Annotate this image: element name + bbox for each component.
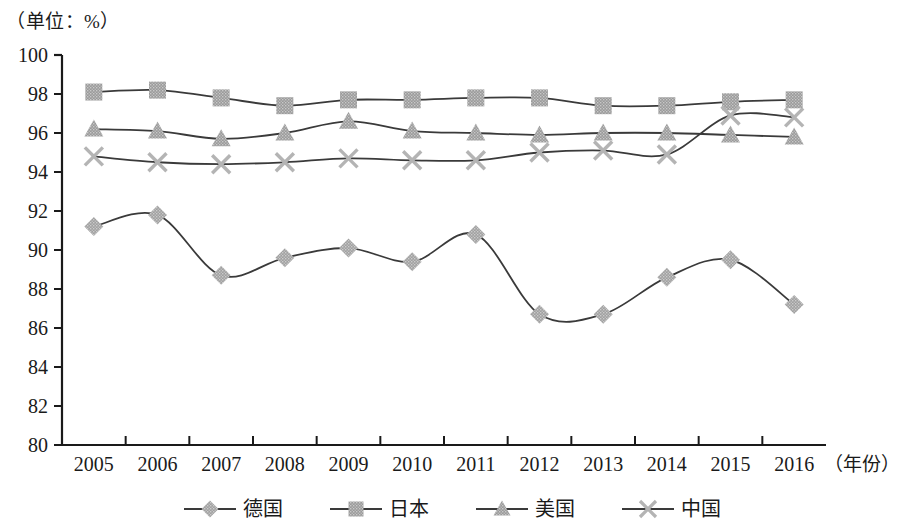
data-point-marker-美国 (594, 124, 613, 141)
data-point-marker-日本 (467, 89, 484, 106)
legend-label: 德国 (243, 498, 283, 520)
data-point-marker-日本 (786, 91, 803, 108)
series-德国 (94, 213, 794, 322)
chart-legend: 德国日本美国中国 (0, 492, 904, 526)
data-point-marker-日本 (658, 97, 675, 114)
data-point-marker-日本 (85, 84, 102, 101)
series-line (94, 113, 794, 164)
legend-swatch-diamond-icon (183, 499, 237, 519)
series-markers-日本 (85, 82, 802, 115)
data-point-marker-德国 (721, 250, 740, 269)
data-point-marker-日本 (213, 89, 230, 106)
data-point-marker-德国 (657, 268, 676, 287)
data-point-marker-德国 (785, 295, 804, 314)
data-point-marker-德国 (594, 305, 613, 324)
data-point-marker-美国 (657, 124, 676, 141)
series-中国 (94, 113, 794, 164)
series-markers-美国 (84, 112, 803, 147)
data-point-marker-美国 (339, 112, 358, 129)
data-point-marker-德国 (212, 266, 231, 285)
x-axis-title: （年份） (824, 453, 900, 477)
x-axis-ticks (62, 436, 762, 445)
data-point-marker-日本 (404, 91, 421, 108)
data-point-marker-德国 (403, 252, 422, 271)
legend-swatch-triangle-icon (475, 499, 529, 519)
y-axis-ticks (54, 55, 62, 445)
data-point-marker-德国 (466, 225, 485, 244)
chart-container: （单位：%） 10098969492908886848280 200520062… (0, 0, 904, 530)
plot-area (0, 0, 904, 530)
data-point-marker-中国 (658, 145, 676, 163)
legend-item-德国[interactable]: 德国 (183, 498, 283, 520)
series-line (94, 90, 794, 107)
data-point-marker-日本 (276, 97, 293, 114)
series-日本 (94, 90, 794, 107)
data-point-marker-日本 (340, 91, 357, 108)
axis-lines (54, 55, 826, 445)
data-point-marker-德国 (148, 205, 167, 224)
legend-swatch-square-icon (329, 499, 383, 519)
data-point-marker-日本 (149, 82, 166, 99)
legend-swatch-x-cross-icon (621, 499, 675, 519)
legend-item-美国[interactable]: 美国 (475, 498, 575, 520)
x-axis-tick-labels: 2005200620072008200920102011201220132014… (0, 452, 904, 482)
series-line (94, 121, 794, 139)
x-axis-tick-label: 2016 (754, 452, 834, 476)
series-美国 (94, 121, 794, 139)
data-point-marker-美国 (530, 125, 549, 142)
data-point-marker-日本 (595, 97, 612, 114)
legend-item-日本[interactable]: 日本 (329, 498, 429, 520)
data-point-marker-德国 (275, 248, 294, 267)
series-line (94, 213, 794, 322)
legend-item-中国[interactable]: 中国 (621, 498, 721, 520)
legend-label: 日本 (389, 498, 429, 520)
data-point-marker-美国 (84, 120, 103, 137)
data-point-marker-德国 (339, 239, 358, 258)
data-point-marker-德国 (84, 217, 103, 236)
data-point-marker-日本 (531, 89, 548, 106)
legend-label: 中国 (681, 498, 721, 520)
legend-label: 美国 (535, 498, 575, 520)
